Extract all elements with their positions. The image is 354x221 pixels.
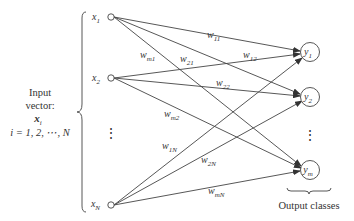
input-nodes: x1 x2 ⋮ xN <box>90 11 118 212</box>
weight-wm1: wm1 <box>140 49 155 63</box>
weight-wmN: wmN <box>208 185 225 199</box>
weight-wm2: wm2 <box>164 108 180 122</box>
output-ellipsis: ⋮ <box>303 128 317 143</box>
weight-w22: w22 <box>216 77 230 91</box>
weight-w1N: w1N <box>162 140 177 154</box>
output-caption: Output classes <box>279 200 340 211</box>
weight-labels: w11 w21 wm1 w12 w22 wm2 w1N w2N wmN <box>140 29 257 199</box>
input-brace <box>77 12 86 212</box>
svg-text:i = 1, 2, ⋯, N: i = 1, 2, ⋯, N <box>10 127 71 138</box>
svg-text:xN: xN <box>90 198 100 212</box>
svg-text:x2: x2 <box>91 72 100 86</box>
edge-x2-y2 <box>114 78 300 96</box>
input-node-x2 <box>108 75 114 81</box>
neural-network-diagram: Input vector: xi i = 1, 2, ⋯, N x1 x2 ⋮ … <box>0 0 354 221</box>
input-vector-symbol: xi <box>33 112 42 127</box>
input-node-xN <box>108 202 114 208</box>
weight-w2N: w2N <box>201 154 216 168</box>
output-nodes: y1 y2 ⋮ ym <box>301 43 320 180</box>
input-caption: Input vector: xi i = 1, 2, ⋯, N <box>10 87 71 138</box>
edge-xN-y1 <box>114 58 302 205</box>
edge-xN-ym <box>114 171 300 205</box>
output-brace <box>287 188 331 194</box>
weight-w11: w11 <box>207 29 220 43</box>
svg-text:Input: Input <box>29 87 51 98</box>
svg-text:x1: x1 <box>91 11 100 25</box>
weight-edges <box>114 17 302 205</box>
input-ellipsis: ⋮ <box>104 126 118 141</box>
weight-w21: w21 <box>180 53 194 67</box>
svg-text:vector:: vector: <box>25 100 54 111</box>
input-node-x1 <box>108 14 114 20</box>
